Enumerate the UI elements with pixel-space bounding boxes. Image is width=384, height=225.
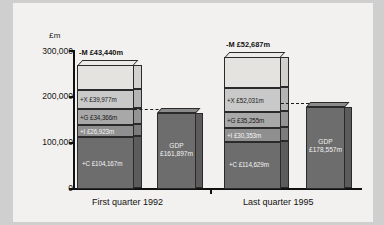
bar2-imports-side — [280, 57, 289, 87]
bar2-segment-investment: +I £30,353m — [224, 128, 281, 142]
bar1-exports-label: +X £39,977m — [78, 96, 117, 103]
category-label-1992: First quarter 1992 — [92, 197, 163, 207]
bar2-segment-government: +G £35,255m — [224, 112, 281, 128]
y-axis-line — [73, 50, 75, 189]
bar2-imports-label: -M £52,687m — [226, 40, 270, 49]
bar2-exports-side — [280, 87, 289, 111]
bar2-government-label: +G £35,255m — [225, 117, 264, 124]
bar1-government-side — [133, 108, 142, 124]
bar2-consumption-side — [280, 141, 289, 188]
bar1-segment-consumption: +C £104,167m — [77, 137, 134, 189]
bar2-segment-exports: +X £52,031m — [224, 88, 281, 112]
gdp2-side — [344, 107, 352, 188]
x-axis-divider-tick — [210, 188, 212, 194]
bar2-exports-label: +X £52,031m — [225, 97, 264, 104]
bar1-segment-government: +G £34,366m — [77, 109, 134, 125]
bar1-imports-side — [133, 65, 142, 89]
y-axis-unit-label: £m — [49, 31, 61, 40]
bar1-consumption-label: +C £104,167m — [80, 160, 122, 167]
chart-page: £m 300,000 200,000 100,000 0 — [0, 0, 384, 225]
bar1-investment-side — [133, 124, 142, 136]
bar1-investment-label: +I £26,923m — [78, 128, 114, 135]
bar1-exports-side — [133, 89, 142, 108]
bar1-segment-investment: +I £26,923m — [77, 125, 134, 137]
gdp1-value: £161,897m — [158, 150, 195, 158]
gdp1-side — [195, 113, 203, 188]
gdp1-name: GDP — [158, 142, 195, 150]
bar2-segment-imports — [224, 57, 281, 88]
bar2-investment-side — [280, 127, 289, 141]
bar2-segment-consumption: +C £114,629m — [224, 142, 281, 189]
bar2-investment-label: +I £30,353m — [225, 132, 261, 139]
gdp2-front-face: GDP £178,557m — [306, 107, 345, 189]
bar1-segment-imports — [77, 65, 134, 90]
gdp1-front-face: GDP £161,897m — [157, 113, 196, 189]
gdp2-value: £178,557m — [307, 146, 344, 154]
gdp2-name: GDP — [307, 138, 344, 146]
bar1-imports-label: -M £43,440m — [79, 48, 123, 57]
bar1-consumption-side — [133, 136, 142, 188]
bar2-government-side — [280, 111, 289, 127]
gdp-connector-1995 — [281, 103, 309, 104]
category-label-1995: Last quarter 1995 — [243, 197, 314, 207]
bar1-government-label: +G £34,366m — [78, 114, 117, 121]
chart-plate: £m 300,000 200,000 100,000 0 — [13, 3, 373, 222]
bar1-segment-exports: +X £39,977m — [77, 90, 134, 109]
bar2-consumption-label: +C £114,629m — [227, 161, 269, 168]
